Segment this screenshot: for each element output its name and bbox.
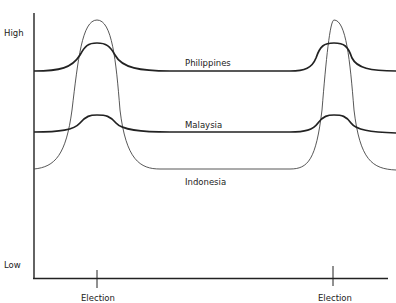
philippines-label: Philippines (185, 58, 231, 68)
election-diagram: High Low Election Election Philippines M… (0, 0, 396, 303)
indonesia-label: Indonesia (185, 177, 226, 187)
y-high-label: High (4, 28, 24, 38)
y-low-label: Low (4, 260, 21, 270)
x-election-label-1: Election (81, 293, 115, 303)
x-election-label-2: Election (318, 293, 352, 303)
indonesia-line (34, 20, 396, 170)
malaysia-label: Malaysia (185, 120, 222, 130)
